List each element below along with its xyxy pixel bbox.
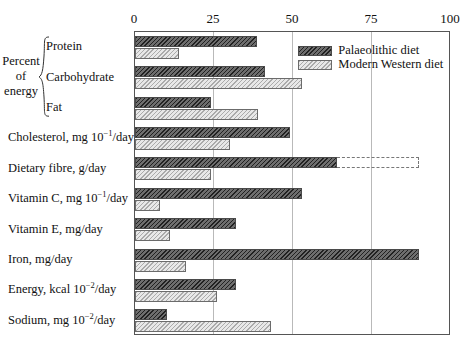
bar-modern-4 [135, 169, 211, 180]
bar-palaeolithic-8 [135, 279, 236, 290]
category-label-3: Cholesterol, mg 10−1/day [8, 130, 132, 144]
unit-exponent-3: −1 [103, 128, 112, 138]
legend-row-0: Palaeolithic diet [298, 44, 443, 57]
bar-modern-9 [135, 321, 271, 332]
bar-palaeolithic-1 [135, 66, 265, 77]
group-label-line-2: of [0, 69, 42, 84]
chart-figure: 0255075100 Palaeolithic dietModern Weste… [0, 0, 461, 346]
plot-area [134, 31, 450, 335]
unit-exponent-8: −2 [86, 280, 95, 290]
category-label-9: Sodium, mg 10−2/day [8, 313, 132, 327]
x-tick-label-25: 25 [207, 12, 220, 26]
legend-label-0: Palaeolithic diet [338, 44, 419, 57]
bar-palaeolithic-6 [135, 218, 236, 229]
category-label-0: Protein [46, 39, 82, 53]
category-label-6: Vitamin E, mg/day [8, 222, 132, 236]
category-label-4: Dietary fibre, g/day [8, 161, 132, 175]
x-axis-tick-labels: 0255075100 [0, 12, 461, 30]
bar-modern-8 [135, 291, 217, 302]
category-label-8: Energy, kcal 10−2/day [8, 282, 132, 296]
bar-palaeolithic-0 [135, 36, 257, 47]
legend-swatch-palaeolithic [298, 46, 332, 56]
bar-palaeolithic-2 [135, 97, 211, 108]
bar-palaeolithic-7 [135, 249, 419, 260]
bar-modern-7 [135, 261, 186, 272]
x-tick-label-50: 50 [286, 12, 299, 26]
percent-of-energy-group-label: Percent of energy [0, 54, 42, 99]
legend-label-1: Modern Western diet [338, 58, 443, 71]
x-tick-label-0: 0 [131, 12, 138, 26]
bar-palaeolithic-5 [135, 188, 302, 199]
group-label-line-3: energy [0, 84, 42, 99]
bar-modern-6 [135, 230, 170, 241]
legend-swatch-modern [298, 60, 332, 70]
unit-exponent-5: −1 [98, 189, 107, 199]
category-label-5: Vitamin C, mg 10−1/day [8, 191, 132, 205]
bar-extension-dashed-4 [337, 157, 419, 168]
x-tick-label-75: 75 [365, 12, 378, 26]
bar-modern-3 [135, 139, 230, 150]
chart-legend: Palaeolithic dietModern Western diet [298, 44, 443, 71]
bar-palaeolithic-3 [135, 127, 290, 138]
category-label-2: Fat [46, 100, 62, 114]
legend-row-1: Modern Western diet [298, 58, 443, 71]
bar-palaeolithic-9 [135, 309, 167, 320]
gridline-75 [371, 32, 372, 334]
category-label-7: Iron, mg/day [8, 252, 132, 266]
group-label-line-1: Percent [0, 54, 42, 69]
unit-exponent-9: −2 [85, 311, 94, 321]
bar-modern-5 [135, 200, 160, 211]
category-label-1: Carbohydrate [46, 70, 114, 84]
bar-palaeolithic-4 [135, 157, 337, 168]
bar-modern-1 [135, 78, 302, 89]
bar-modern-2 [135, 109, 258, 120]
x-tick-label-100: 100 [440, 12, 460, 26]
bar-modern-0 [135, 48, 179, 59]
